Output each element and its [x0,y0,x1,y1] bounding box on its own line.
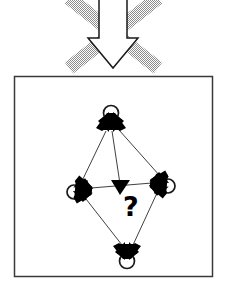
diagram-panel: ? [0,0,226,287]
figure-root: ? [0,0,226,287]
question-mark: ? [123,191,139,222]
